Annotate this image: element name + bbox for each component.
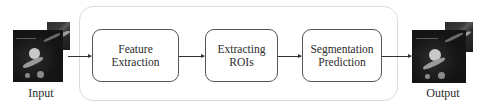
block-label-line2: ROIs: [218, 56, 266, 69]
vessel-blob: [25, 73, 30, 78]
vessel-blob: [37, 71, 44, 78]
block-label-line2: Prediction: [310, 56, 373, 69]
block-label-line2: Extraction: [112, 56, 160, 69]
arrow-input-to-feature: [68, 56, 91, 57]
vessel-blob: [438, 72, 445, 79]
vessel-blob: [425, 74, 430, 79]
block-label-line1: Segmentation: [310, 43, 373, 56]
scan-line: [416, 38, 438, 39]
block-label-line1: Extracting: [218, 43, 266, 56]
arrow-feature-to-roi: [179, 56, 204, 57]
output-image-front: [412, 30, 466, 83]
output-label: Output: [413, 86, 473, 101]
extracting-rois-block: Extracting ROIs: [205, 29, 278, 82]
feature-extraction-block: Feature Extraction: [92, 29, 179, 82]
segmentation-prediction-block: Segmentation Prediction: [302, 29, 382, 82]
input-label: Input: [11, 86, 71, 101]
scan-line: [16, 38, 36, 39]
arrow-roi-to-segmentation: [278, 56, 301, 57]
input-image-front: [13, 30, 63, 82]
block-label-line1: Feature: [112, 43, 160, 56]
arrow-segmentation-to-output: [382, 56, 411, 57]
